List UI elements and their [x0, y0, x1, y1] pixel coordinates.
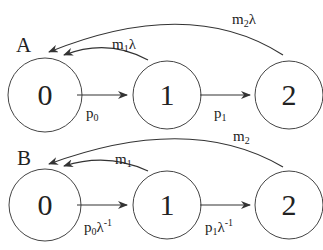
panel-b-edge-label-m2: m2	[233, 127, 250, 146]
panel-b-arrow-1-to-0	[64, 160, 148, 171]
panel-a-edge-label-m2: m2λ	[232, 10, 256, 29]
panel-a-edge-label-p0: p0	[86, 104, 99, 123]
panel-b-node-1-label: 1	[160, 190, 175, 220]
panel-b-edge-label-m1: m1	[115, 150, 132, 169]
panel-b-edge-label-p1: p1λ-1	[205, 218, 233, 237]
panel-b-node-2-label: 2	[282, 190, 297, 220]
panel-b-label: B	[17, 148, 31, 169]
panel-a-edge-label-m1: m1λ	[112, 35, 136, 54]
panel-a-edge-label-p1: p1	[214, 104, 227, 123]
panel-a-node-2-label: 2	[282, 80, 297, 110]
panel-b-node-0-label: 0	[38, 190, 53, 220]
panel-a-label: A	[16, 35, 31, 56]
panel-a-node-0-label: 0	[38, 80, 53, 110]
state-transition-diagram: A 0 1 2 p0 p1 m1λ m2λ B 0 1 2 p0λ-1 p1λ-…	[0, 0, 323, 250]
panel-a-node-1-label: 1	[160, 80, 175, 110]
panel-b-edge-label-p0: p0λ-1	[84, 218, 112, 237]
